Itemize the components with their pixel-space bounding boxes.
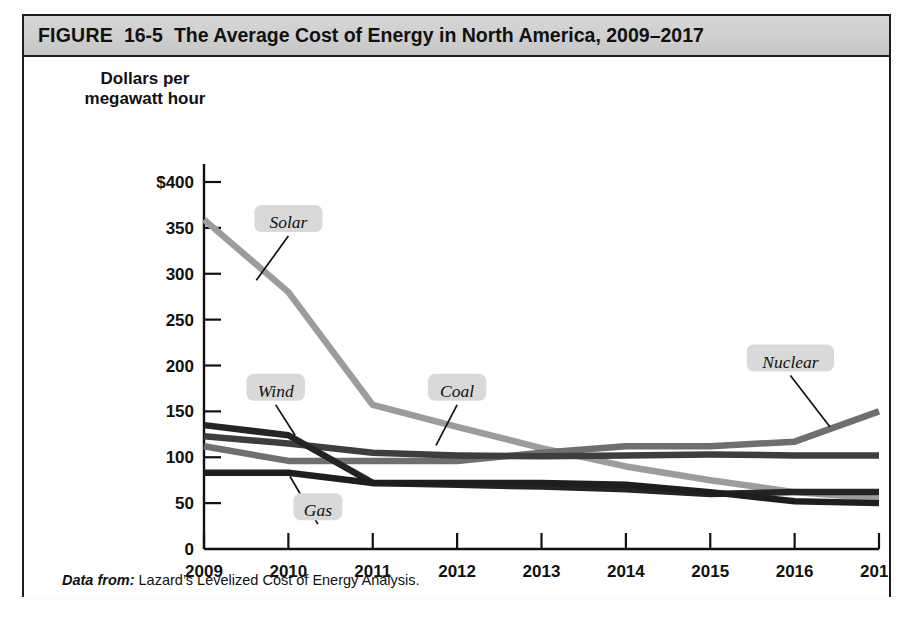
series-label-leader-wind — [276, 405, 295, 435]
x-axis-tick-label: 2013 — [523, 562, 561, 581]
x-axis-title: Year — [843, 596, 879, 597]
y-axis-tick-label: 200 — [166, 357, 194, 376]
x-axis-tick-label: 2014 — [607, 562, 645, 581]
y-axis-tick-label: 300 — [166, 265, 194, 284]
x-axis-tick-label: 2012 — [438, 562, 476, 581]
series-label-text-solar: Solar — [269, 212, 307, 232]
figure-container: FIGURE 16-5 The Average Cost of Energy i… — [22, 14, 891, 597]
source-prefix: Data from: — [62, 572, 135, 588]
figure-label: FIGURE — [38, 24, 113, 47]
series-label-solar: Solar — [254, 205, 322, 232]
series-label-leader-nuclear — [790, 376, 830, 427]
series-label-gas: Gas — [294, 493, 343, 520]
series-label-wind: Wind — [247, 374, 305, 401]
line-chart: 050100150200250300350$400200920102011201… — [24, 57, 889, 597]
series-label-text-nuclear: Nuclear — [761, 352, 819, 372]
plot-area: Dollars per megawatt hour 05010015020025… — [24, 57, 889, 597]
figure-title: The Average Cost of Energy in North Amer… — [174, 24, 704, 47]
y-axis-tick-label: 150 — [166, 402, 194, 421]
y-axis-tick-label: 350 — [166, 219, 194, 238]
y-axis-tick-label: $400 — [156, 173, 194, 192]
y-axis-tick-label: 0 — [185, 540, 194, 559]
source-note: Data from: Lazard’s Levelized Cost of En… — [62, 572, 420, 588]
y-axis-tick-label: 250 — [166, 311, 194, 330]
x-axis-tick-label: 2017 — [860, 562, 889, 581]
source-text: Lazard’s Levelized Cost of Energy Analys… — [139, 572, 420, 588]
series-label-text-coal: Coal — [440, 381, 474, 401]
figure-title-bar: FIGURE 16-5 The Average Cost of Energy i… — [24, 16, 889, 57]
series-label-text-wind: Wind — [258, 381, 294, 401]
figure-number: 16-5 — [124, 24, 163, 47]
x-axis-tick-label: 2015 — [691, 562, 729, 581]
y-axis-tick-label: 50 — [175, 494, 194, 513]
series-label-leader-solar — [256, 236, 288, 280]
series-label-nuclear: Nuclear — [747, 345, 834, 372]
y-axis-tick-label: 100 — [166, 448, 194, 467]
series-label-coal: Coal — [428, 374, 486, 401]
series-label-text-gas: Gas — [304, 500, 332, 520]
x-axis-tick-label: 2016 — [776, 562, 814, 581]
